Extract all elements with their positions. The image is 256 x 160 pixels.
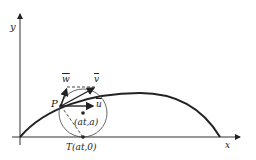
cycloid-diagram: y x P w v u (at,a) T(at,0) [0,0,256,160]
vector-v-label: v [94,75,99,84]
cycloid-curve [20,93,220,137]
x-axis-label: x [225,141,230,150]
point-p-label: P [51,99,58,109]
diagram-canvas [0,0,256,160]
y-axis-label: y [10,22,16,32]
vector-w-label: w [62,75,70,84]
center-dot [81,111,85,115]
center-label: (at,a) [74,118,98,127]
vector-u-label: u [96,100,102,109]
tangent-point-label: T(at,0) [66,143,97,152]
